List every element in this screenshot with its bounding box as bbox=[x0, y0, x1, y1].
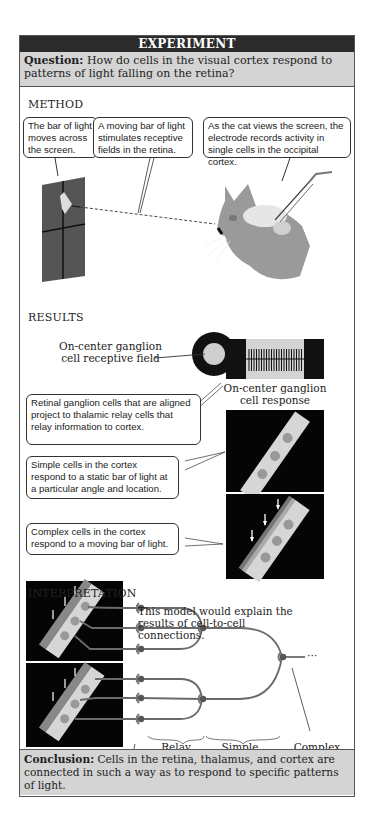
callout-retinal-ganglion: Retinal ganglion cells that are aligned … bbox=[26, 394, 201, 445]
callout-complex-cells: Complex cells in the cortex respond to a… bbox=[26, 523, 179, 555]
receptive-field-label: On-center ganglion cell receptive field bbox=[58, 340, 163, 364]
model-explanation: This model would explain the results of … bbox=[138, 605, 298, 641]
conclusion-band: Conclusion: Cells in the retina, thalamu… bbox=[20, 749, 354, 795]
conclusion-label: Conclusion: bbox=[24, 753, 94, 765]
simple-cell-panel bbox=[226, 410, 324, 500]
screen-icon bbox=[42, 177, 85, 282]
retina-panels bbox=[26, 579, 123, 747]
results-title: RESULTS bbox=[28, 311, 84, 324]
ganglion-response-label: On-center ganglion cell response bbox=[220, 382, 330, 406]
ellipsis: ··· bbox=[307, 650, 318, 663]
experiment-panel: EXPERIMENT Question: How do cells in the… bbox=[19, 35, 355, 797]
complex-cell-panel bbox=[226, 494, 324, 582]
interpretation-title: INTERPRETATION bbox=[28, 587, 137, 600]
callout-simple-cells: Simple cells in the cortex respond to a … bbox=[26, 456, 179, 499]
ganglion-response-plot bbox=[226, 339, 324, 379]
